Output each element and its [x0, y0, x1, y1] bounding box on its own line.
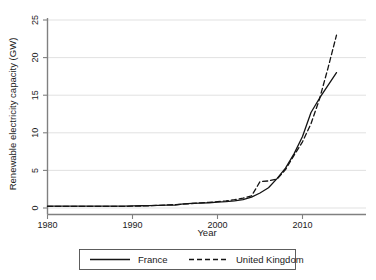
x-tick-label-1980: 1980: [37, 220, 57, 230]
line-chart: 0510152025 1980199020002010 Renewable el…: [0, 0, 376, 280]
x-tick-label-2010: 2010: [292, 220, 312, 230]
chart-legend: France United Kingdom: [80, 250, 304, 270]
y-tick-label-10: 10: [30, 128, 40, 138]
y-tick-label-25: 25: [30, 15, 40, 25]
y-tick-label-15: 15: [30, 90, 40, 100]
legend-label-france: France: [138, 254, 168, 265]
y-tick-label-5: 5: [30, 168, 40, 173]
chart-background: [0, 0, 376, 280]
x-tick-label-1990: 1990: [122, 220, 142, 230]
y-tick-label-0: 0: [30, 205, 40, 210]
y-axis-title: Renewable electricity capacity (GW): [7, 38, 18, 191]
legend-label-united-kingdom: United Kingdom: [236, 254, 304, 265]
y-tick-label-20: 20: [30, 53, 40, 63]
x-axis-title: Year: [197, 227, 216, 238]
chart-figure: 0510152025 1980199020002010 Renewable el…: [0, 0, 376, 280]
